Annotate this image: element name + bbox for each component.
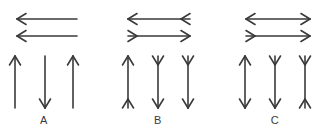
a-horizontal-arrow-bottom: [17, 31, 77, 42]
c-vertical-arrow-3: [300, 56, 311, 108]
c-horizontal-arrow-top: [246, 14, 310, 25]
group-label-a: A: [24, 114, 64, 126]
c-horizontal-arrow-bottom: [246, 31, 310, 42]
a-vertical-arrow-3: [68, 56, 79, 108]
b-vertical-arrow-2: [153, 56, 164, 108]
c-vertical-arrow-2: [270, 56, 281, 108]
group-label-b: B: [138, 114, 178, 126]
a-vertical-arrow-2: [40, 56, 51, 108]
arrow-illusion-figure: A B C: [0, 0, 328, 134]
c-vertical-arrow-1: [240, 56, 251, 108]
b-vertical-arrow-1: [123, 56, 134, 108]
group-label-c: C: [255, 114, 295, 126]
a-vertical-arrow-1: [10, 56, 21, 108]
b-vertical-arrow-3: [183, 56, 194, 108]
a-horizontal-arrow-top: [17, 14, 77, 25]
b-horizontal-arrow-top: [128, 14, 190, 25]
b-horizontal-arrow-bottom: [128, 31, 190, 42]
